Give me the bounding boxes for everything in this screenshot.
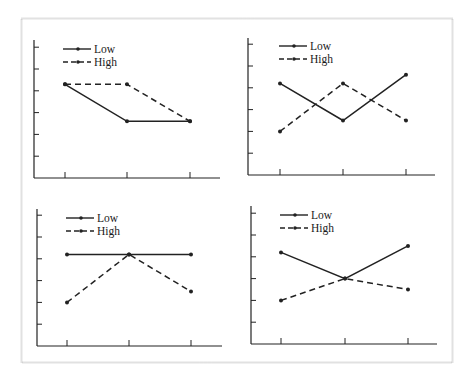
data-point-low: [341, 119, 345, 123]
legend-label: High: [97, 225, 120, 238]
data-point-high: [189, 290, 193, 294]
legend-marker: [79, 229, 83, 233]
legend: LowHigh: [66, 212, 120, 238]
data-point-high: [278, 129, 282, 133]
legend-marker: [293, 213, 297, 217]
legend-marker: [292, 44, 296, 48]
legend-marker: [76, 60, 80, 64]
series-line-high: [67, 254, 191, 302]
figure-frame: [22, 19, 453, 363]
data-point-high: [188, 119, 192, 123]
legend-label: High: [310, 53, 333, 66]
panel-bottom-right: LowHigh: [251, 206, 437, 344]
data-point-high: [406, 288, 410, 292]
data-point-high: [65, 300, 69, 304]
legend-label: High: [94, 56, 117, 69]
panel-top-left: LowHigh: [34, 40, 220, 178]
legend: LowHigh: [279, 40, 333, 66]
data-point-low: [279, 250, 283, 254]
panel-bottom-left: LowHigh: [37, 209, 222, 346]
data-point-low: [404, 73, 408, 77]
data-point-low: [278, 81, 282, 85]
series-line-high: [280, 83, 406, 131]
data-point-high: [63, 82, 67, 86]
data-point-high: [279, 298, 283, 302]
data-point-low: [189, 252, 193, 256]
legend-marker: [76, 47, 80, 51]
legend-label: Low: [311, 209, 333, 221]
series-line-low: [281, 246, 408, 279]
series-line-low: [65, 84, 190, 121]
data-point-low: [125, 119, 129, 123]
data-point-high: [341, 81, 345, 85]
data-point-low: [65, 252, 69, 256]
data-point-high: [127, 252, 131, 256]
data-point-low: [406, 244, 410, 248]
legend-label: Low: [97, 212, 119, 224]
legend-marker: [79, 216, 83, 220]
legend-label: High: [311, 222, 334, 235]
legend-label: Low: [94, 43, 116, 55]
data-point-high: [125, 82, 129, 86]
legend-marker: [293, 226, 297, 230]
legend-marker: [292, 57, 296, 61]
legend: LowHigh: [63, 43, 117, 69]
series-line-high: [281, 279, 408, 301]
series-line-high: [65, 84, 190, 121]
legend: LowHigh: [280, 209, 334, 235]
legend-label: Low: [310, 40, 332, 52]
four-panel-interaction-plot: LowHighLowHighLowHighLowHigh: [0, 0, 473, 378]
data-point-high: [343, 277, 347, 281]
figure: LowHighLowHighLowHighLowHigh: [0, 0, 473, 378]
data-point-high: [404, 119, 408, 123]
panel-top-right: LowHigh: [248, 38, 435, 175]
